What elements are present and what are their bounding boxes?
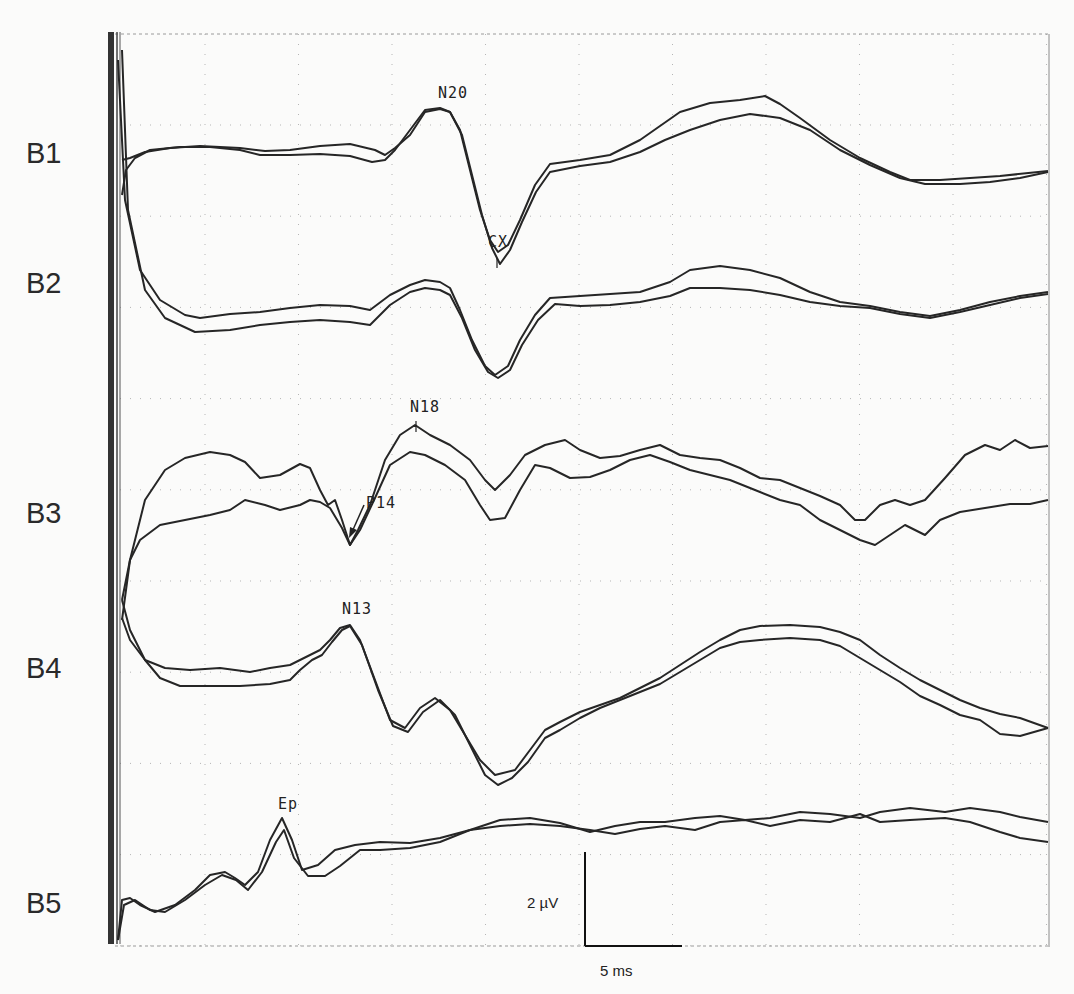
channel-label-b5: B5 [26,887,61,920]
trace-b5 [118,808,1048,940]
trace-b3 [122,452,1048,600]
channel-label-b2: B2 [26,267,61,300]
trace-b4 [122,600,1048,785]
peak-label-n18: N18 [410,398,440,416]
trace-b5 [118,814,1048,940]
channel-label-b1: B1 [26,137,61,170]
peak-label-n13: N13 [342,600,372,618]
peak-label-p14: P14 [366,494,396,512]
peak-label-ep: Ep [278,795,298,813]
peak-label-n20: N20 [438,84,468,102]
peak-label-cx: CX [488,233,508,251]
trace-b4 [122,618,1048,775]
grid-lines [120,34,1049,946]
trace-b2 [122,50,1048,378]
traces [118,50,1048,940]
stimulus-artifact-bar [108,32,114,944]
trace-b3 [122,425,1048,620]
scale-horizontal-label: 5 ms [600,962,633,979]
trace-b2 [118,60,1048,375]
trace-b1 [122,108,1048,264]
trace-b1 [122,96,1048,252]
channel-label-b3: B3 [26,497,61,530]
sep-waveform-plot [0,0,1074,994]
scale-vertical-label: 2 µV [527,894,558,911]
channel-label-b4: B4 [26,652,61,685]
